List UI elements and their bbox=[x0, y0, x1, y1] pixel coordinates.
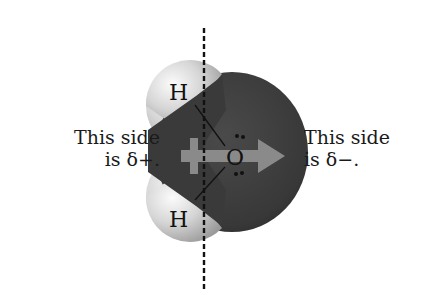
left-label-line1: This side bbox=[74, 126, 160, 148]
left-label-line2: is δ+. bbox=[74, 148, 160, 170]
right-label: This side is δ−. bbox=[304, 126, 390, 170]
oxygen-symbol: O bbox=[226, 145, 244, 170]
right-label-line2: is δ−. bbox=[304, 148, 390, 170]
hydrogen-top-symbol: H bbox=[169, 80, 188, 105]
hydrogen-bottom-symbol: H bbox=[169, 207, 188, 232]
right-label-line1: This side bbox=[304, 126, 390, 148]
left-label: This side is δ+. bbox=[74, 126, 160, 170]
